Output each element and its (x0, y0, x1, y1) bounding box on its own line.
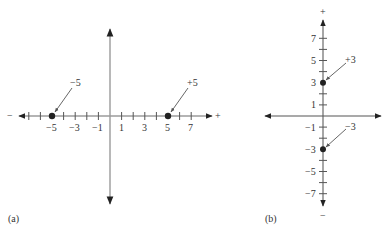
caption-a: (a) (8, 213, 19, 225)
panel-a: − + −5 −3 −1 1 3 5 7 (7, 29, 221, 225)
positive-direction-sign: + (215, 110, 221, 121)
svg-text:−5: −5 (46, 122, 57, 133)
svg-text:5: 5 (165, 122, 170, 133)
svg-text:1: 1 (311, 99, 316, 110)
svg-text:7: 7 (188, 122, 193, 133)
svg-text:3: 3 (142, 122, 147, 133)
caption-b: (b) (265, 213, 277, 225)
negative-direction-sign: − (320, 210, 326, 221)
tick-labels: −5 −3 −1 1 3 5 7 (46, 122, 193, 133)
callout-arrow-plus-5 (171, 88, 188, 112)
callout-arrow-plus-3 (326, 63, 346, 80)
svg-text:−3: −3 (305, 144, 316, 155)
callout-label-plus-5: +5 (187, 77, 198, 88)
svg-text:−1: −1 (92, 122, 103, 133)
svg-text:−5: −5 (305, 166, 316, 177)
callout-label-plus-3: +3 (345, 54, 356, 65)
negative-direction-sign: − (7, 110, 13, 121)
point-plus-5 (165, 113, 171, 119)
svg-text:1: 1 (119, 122, 124, 133)
svg-text:−3: −3 (69, 122, 80, 133)
svg-text:5: 5 (311, 55, 316, 66)
svg-text:7: 7 (311, 33, 316, 44)
positive-direction-sign: + (320, 6, 326, 17)
svg-text:−7: −7 (305, 188, 316, 199)
number-line-diagram: − + −5 −3 −1 1 3 5 7 (0, 0, 390, 237)
callout-arrow-minus-5 (55, 88, 72, 112)
panel-b: + − 7 5 3 1 −1 −3 −5 −7 (265, 6, 381, 225)
callout-arrow-minus-3 (326, 129, 346, 147)
svg-text:3: 3 (311, 77, 316, 88)
svg-text:−1: −1 (305, 122, 316, 133)
point-plus-3 (320, 80, 326, 86)
callout-label-minus-5: −5 (70, 77, 81, 88)
callout-label-minus-3: −3 (345, 121, 356, 132)
point-minus-3 (320, 146, 326, 152)
point-minus-5 (49, 113, 55, 119)
